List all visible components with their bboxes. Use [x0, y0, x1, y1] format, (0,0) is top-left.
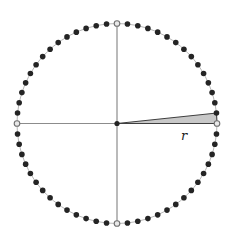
circle-point [214, 110, 220, 116]
circle-point [28, 71, 34, 77]
cardinal-point [214, 121, 220, 127]
circle-point [19, 152, 25, 158]
circle-point [189, 188, 195, 194]
circle-point [145, 26, 151, 32]
circle-point [135, 219, 141, 225]
center-point [114, 121, 119, 126]
circle-point [189, 54, 195, 60]
circle-point [212, 100, 218, 106]
circle-point [195, 62, 201, 68]
circle-point [206, 80, 212, 86]
circle-point [19, 90, 25, 96]
circle-point [15, 110, 21, 116]
circle-point [145, 216, 151, 222]
cardinal-point [114, 221, 120, 227]
circle-point [209, 152, 215, 158]
dotted-circle-diagram: r [0, 0, 234, 238]
circle-point [16, 100, 22, 106]
circle-point [28, 171, 34, 177]
circle-point [40, 54, 46, 60]
circle-point [206, 161, 212, 167]
circle-point [55, 202, 61, 208]
circle-point [181, 195, 187, 201]
circle-point [181, 46, 187, 52]
circle-point [125, 21, 131, 27]
circle-point [40, 188, 46, 194]
radius-label: r [181, 128, 188, 143]
circle-point [55, 40, 61, 46]
circle-point [47, 195, 53, 201]
cardinal-point [114, 21, 120, 27]
circle-point [47, 46, 53, 52]
circle-point [209, 90, 215, 96]
circle-point [33, 62, 39, 68]
circle-point [164, 34, 170, 40]
circle-point [83, 26, 89, 32]
circle-point [164, 207, 170, 213]
circle-point [15, 131, 21, 137]
circle-point [23, 80, 29, 86]
circle-point [214, 131, 220, 137]
circle-point [155, 212, 161, 218]
sector-layer [117, 113, 217, 123]
circle-point [201, 71, 207, 77]
circle-point [93, 23, 99, 29]
circle-point [201, 171, 207, 177]
circle-point [104, 21, 110, 27]
circle-point [93, 219, 99, 225]
circle-area-figure: r [0, 0, 234, 238]
circle-point [104, 220, 110, 226]
circle-point [155, 29, 161, 35]
circle-point [173, 40, 179, 46]
circle-point [74, 29, 80, 35]
circle-point [23, 161, 29, 167]
circle-point [212, 141, 218, 147]
shaded-sector [117, 113, 217, 123]
circle-point [135, 23, 141, 29]
circle-point [195, 179, 201, 185]
circle-point [125, 220, 131, 226]
circle-point [33, 179, 39, 185]
circle-point [64, 34, 70, 40]
cardinal-point [14, 121, 20, 127]
circle-point [173, 202, 179, 208]
circle-point [64, 207, 70, 213]
circle-point [16, 141, 22, 147]
circle-point [74, 212, 80, 218]
circle-point [83, 216, 89, 222]
